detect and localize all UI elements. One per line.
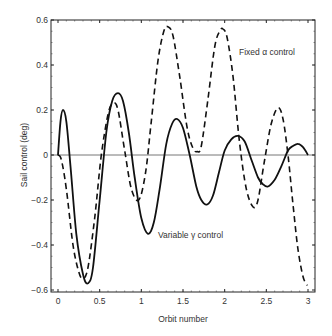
x-tick-label: 2.5 (260, 296, 272, 306)
variable-gamma-series-line (58, 93, 308, 283)
y-tick-label: 0.6 (36, 15, 48, 25)
line-chart: 00.511.522.530.60.40.20−0.2−0.4−0.6 Orbi… (0, 0, 332, 336)
x-tick-label: 0 (56, 296, 61, 306)
y-tick-label: 0 (43, 150, 48, 160)
labels: Orbit number Sail control (deg) Fixed α … (19, 47, 295, 324)
x-tick-label: 1.5 (177, 296, 189, 306)
fixed-alpha-annotation: Fixed α control (239, 47, 295, 57)
x-tick-label: 1 (139, 296, 144, 306)
series-layer (58, 26, 308, 285)
y-tick-label: 0.2 (36, 105, 48, 115)
x-axis-title: Orbit number (158, 314, 208, 324)
y-axis-title: Sail control (deg) (19, 123, 29, 187)
x-tick-label: 0.5 (94, 296, 106, 306)
y-tick-label: −0.2 (31, 195, 48, 205)
y-tick-label: −0.6 (31, 285, 48, 295)
variable-gamma-annotation: Variable γ control (158, 230, 223, 240)
y-tick-label: −0.4 (31, 240, 48, 250)
axes: 00.511.522.530.60.40.20−0.2−0.4−0.6 (31, 15, 315, 306)
y-tick-label: 0.4 (36, 60, 48, 70)
plot-frame (51, 20, 315, 292)
x-tick-label: 3 (306, 296, 311, 306)
x-tick-label: 2 (222, 296, 227, 306)
